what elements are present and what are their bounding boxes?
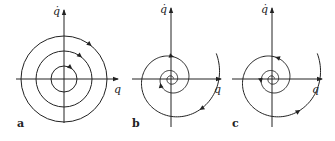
direction-arrow-icon [275,56,281,61]
panel-c-label: c [232,118,239,129]
panel-a [16,10,118,123]
panel-a-label: a [17,118,24,129]
panel-b-qdot-label: q̇ [160,4,167,15]
panel-b-label: b [132,118,140,129]
direction-arrow-icon [77,52,82,57]
panel-a-q-label: q [114,84,121,95]
phase-portraits-svg [0,0,335,141]
panel-c-qdot-label: q̇ [261,4,268,15]
panel-a-qdot-label: q̇ [53,6,60,17]
panel-c-spiral-trajectory [242,53,320,116]
panel-b-q-label: q [214,84,221,95]
panel-c-q-label: q [312,84,319,95]
direction-arrow-icon [159,83,164,88]
phase-portrait-figure: q̇ q a q̇ q b q̇ q c [0,0,335,141]
panel-b [132,8,221,127]
panel-c [232,8,322,127]
panel-b-spiral-trajectory [141,53,219,116]
panel-c-direction-arrows [258,56,300,114]
direction-arrow-icon [86,41,91,46]
direction-arrow-icon [258,78,263,83]
